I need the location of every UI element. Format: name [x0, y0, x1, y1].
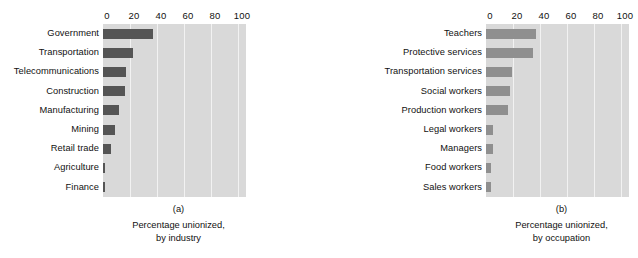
category-label: Government — [0, 24, 99, 43]
bar — [486, 29, 536, 39]
plot-area-a — [103, 24, 246, 197]
category-label: Managers — [380, 139, 482, 158]
bar — [103, 125, 115, 135]
bars-a — [103, 24, 246, 197]
chart-b: 020406080100 TeachersProtective services… — [380, 10, 633, 197]
x-tick-label: 40 — [156, 10, 167, 21]
category-label: Legal workers — [380, 120, 482, 139]
bar — [486, 182, 491, 192]
bar-slot — [486, 139, 629, 158]
plot-row-b: TeachersProtective servicesTransportatio… — [380, 24, 633, 197]
bar — [486, 86, 510, 96]
plot-row-a: GovernmentTransportationTelecommunicatio… — [0, 24, 250, 197]
bar-slot — [486, 120, 629, 139]
chart-panel-b: 020406080100 TeachersProtective services… — [280, 0, 561, 258]
category-label: Transportation — [0, 43, 99, 62]
panel-letter-b: (b) — [490, 203, 633, 217]
category-label: Construction — [0, 82, 99, 101]
caption-b-line2: by occupation — [472, 232, 638, 246]
bar — [486, 144, 493, 154]
bar-slot — [103, 101, 246, 120]
category-label: Agriculture — [0, 158, 99, 177]
bar-slot — [486, 158, 629, 177]
category-label: Protective services — [380, 43, 482, 62]
bar — [103, 67, 126, 77]
bar — [103, 144, 111, 154]
category-labels-b: TeachersProtective servicesTransportatio… — [380, 24, 486, 197]
x-tick-label: 60 — [183, 10, 194, 21]
category-label: Social workers — [380, 82, 482, 101]
x-tick-label: 0 — [487, 10, 492, 21]
bar-slot — [486, 24, 629, 43]
x-tick-label: 0 — [104, 10, 109, 21]
x-axis-a: 020406080100 — [107, 10, 250, 24]
bar-slot — [103, 139, 246, 158]
x-tick-label: 100 — [234, 10, 250, 21]
bar — [103, 182, 105, 192]
category-label: Sales workers — [380, 178, 482, 197]
x-tick-label: 80 — [593, 10, 604, 21]
category-label: Production workers — [380, 101, 482, 120]
bar-slot — [486, 43, 629, 62]
bar-slot — [486, 62, 629, 81]
bar — [103, 48, 133, 58]
caption-b: (b) Percentage unionized, by occupation — [490, 203, 633, 246]
chart-a: 020406080100 GovernmentTransportationTel… — [0, 10, 250, 197]
caption-b-line1: Percentage unionized, — [472, 219, 638, 233]
plot-area-b — [486, 24, 629, 197]
bar — [486, 105, 508, 115]
bars-b — [486, 24, 629, 197]
x-tick-label: 40 — [539, 10, 550, 21]
bar — [486, 163, 491, 173]
bar-slot — [486, 101, 629, 120]
bar — [103, 105, 119, 115]
x-tick-label: 100 — [617, 10, 633, 21]
bar — [486, 67, 512, 77]
bar — [103, 163, 105, 173]
bar — [103, 86, 125, 96]
caption-a-line2: by industry — [89, 232, 268, 246]
category-label: Transportation services — [380, 62, 482, 81]
category-label: Manufacturing — [0, 101, 99, 120]
bar-slot — [103, 82, 246, 101]
x-tick-label: 20 — [512, 10, 523, 21]
caption-a-line1: Percentage unionized, — [89, 219, 268, 233]
bar-slot — [486, 82, 629, 101]
bar — [486, 125, 493, 135]
bar-slot — [103, 120, 246, 139]
x-tick-label: 80 — [210, 10, 221, 21]
panel-letter-a: (a) — [107, 203, 250, 217]
bar-slot — [103, 43, 246, 62]
category-label: Telecommunications — [0, 62, 99, 81]
caption-a: (a) Percentage unionized, by industry — [107, 203, 250, 246]
bar-slot — [486, 178, 629, 197]
x-axis-b: 020406080100 — [490, 10, 633, 24]
category-labels-a: GovernmentTransportationTelecommunicatio… — [0, 24, 103, 197]
bar-slot — [103, 62, 246, 81]
chart-panel-a: 020406080100 GovernmentTransportationTel… — [0, 0, 280, 258]
category-label: Retail trade — [0, 139, 99, 158]
bar — [103, 29, 153, 39]
category-label: Teachers — [380, 24, 482, 43]
bar-slot — [103, 178, 246, 197]
bar — [486, 48, 533, 58]
category-label: Mining — [0, 120, 99, 139]
x-tick-label: 60 — [566, 10, 577, 21]
bar-slot — [103, 158, 246, 177]
x-tick-label: 20 — [129, 10, 140, 21]
category-label: Food workers — [380, 158, 482, 177]
category-label: Finance — [0, 178, 99, 197]
bar-slot — [103, 24, 246, 43]
